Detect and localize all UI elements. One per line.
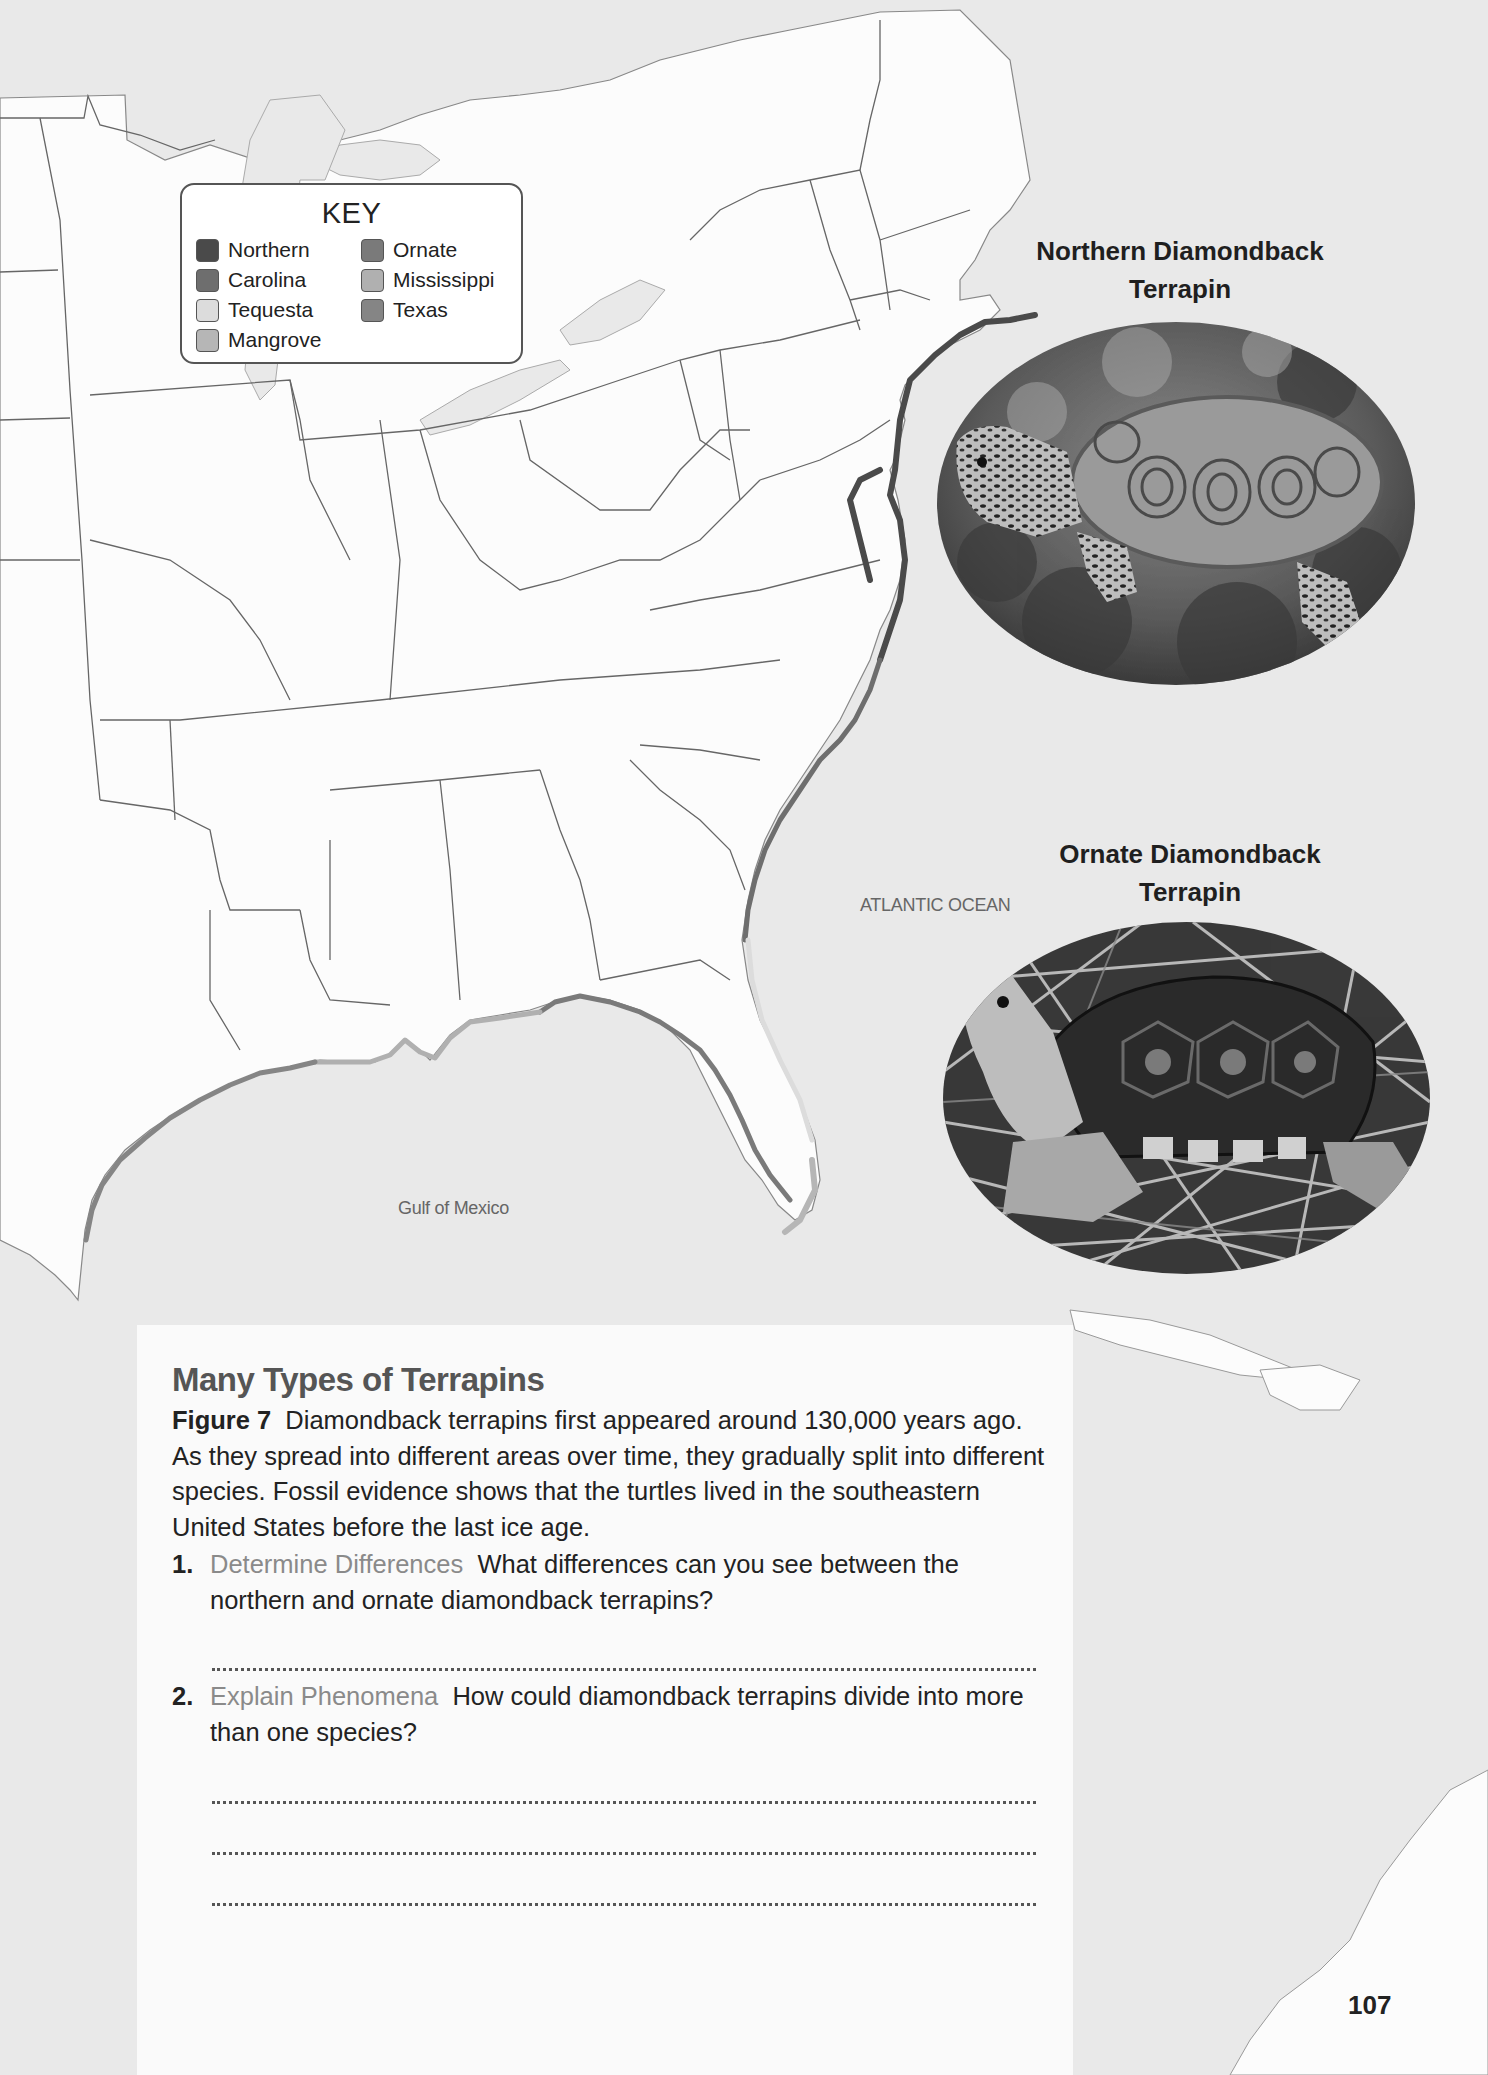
legend-swatch-tequesta xyxy=(196,299,219,322)
legend-item-mississippi: Mississippi xyxy=(361,267,495,293)
legend-item-mangrove: Mangrove xyxy=(196,327,321,353)
legend-label: Ornate xyxy=(393,238,457,262)
northern-terrapin-photo xyxy=(937,322,1415,685)
figure-label: Figure 7 xyxy=(172,1406,271,1434)
figure-caption-panel: Many Types of Terrapins Figure 7 Diamond… xyxy=(137,1325,1073,2075)
atlantic-ocean-label: ATLANTIC OCEAN xyxy=(860,895,1011,916)
northern-title-line1: Northern Diamondback xyxy=(1000,232,1360,270)
figure-caption-text: Diamondback terrapins first appeared aro… xyxy=(172,1406,1044,1541)
map-legend: KEY Northern Carolina Tequesta Mangrove … xyxy=(180,183,523,364)
section-title: Many Types of Terrapins xyxy=(172,1361,544,1399)
gulf-of-mexico-label: Gulf of Mexico xyxy=(398,1198,509,1219)
legend-swatch-mississippi xyxy=(361,269,384,292)
ornate-title-line2: Terrapin xyxy=(1020,873,1360,911)
turtle-photo-icon xyxy=(937,322,1415,685)
answer-line-1[interactable] xyxy=(212,1668,1036,1671)
legend-label: Carolina xyxy=(228,268,306,292)
legend-item-carolina: Carolina xyxy=(196,267,306,293)
legend-item-tequesta: Tequesta xyxy=(196,297,313,323)
answer-line-2b[interactable] xyxy=(212,1852,1036,1855)
question-number: 1. xyxy=(172,1547,193,1583)
legend-item-texas: Texas xyxy=(361,297,448,323)
textbook-page: KEY Northern Carolina Tequesta Mangrove … xyxy=(0,0,1488,2075)
northern-title-line2: Terrapin xyxy=(1000,270,1360,308)
legend-item-ornate: Ornate xyxy=(361,237,457,263)
northern-terrapin-title: Northern Diamondback Terrapin xyxy=(1000,232,1360,308)
legend-item-northern: Northern xyxy=(196,237,310,263)
legend-swatch-carolina xyxy=(196,269,219,292)
figure-caption: Figure 7 Diamondback terrapins first app… xyxy=(172,1403,1052,1545)
answer-line-2c[interactable] xyxy=(212,1903,1036,1906)
answer-line-2a[interactable] xyxy=(212,1801,1036,1804)
legend-label: Texas xyxy=(393,298,448,322)
page-number: 107 xyxy=(1348,1990,1391,2021)
question-skill: Determine Differences xyxy=(210,1550,463,1578)
legend-title: KEY xyxy=(182,197,521,230)
legend-swatch-texas xyxy=(361,299,384,322)
legend-label: Tequesta xyxy=(228,298,313,322)
legend-label: Mangrove xyxy=(228,328,321,352)
ornate-title-line1: Ornate Diamondback xyxy=(1020,835,1360,873)
ornate-terrapin-photo xyxy=(943,922,1430,1274)
legend-label: Mississippi xyxy=(393,268,495,292)
ornate-terrapin-title: Ornate Diamondback Terrapin xyxy=(1020,835,1360,911)
legend-swatch-ornate xyxy=(361,239,384,262)
turtle-photo-icon xyxy=(943,922,1430,1274)
legend-swatch-northern xyxy=(196,239,219,262)
question-number: 2. xyxy=(172,1679,193,1715)
legend-swatch-mangrove xyxy=(196,329,219,352)
question-skill: Explain Phenomena xyxy=(210,1682,438,1710)
legend-label: Northern xyxy=(228,238,310,262)
